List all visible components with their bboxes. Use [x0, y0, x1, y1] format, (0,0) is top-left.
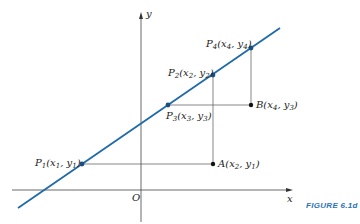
label-p4: P4(x4, y4)	[205, 38, 252, 51]
x-axis-label: x	[287, 193, 293, 204]
y-axis-label: y	[145, 8, 152, 19]
label-p2: P2(x2, y2)	[167, 67, 214, 80]
point-a	[211, 162, 215, 166]
x-axis-arrow-icon	[286, 188, 293, 192]
straight-line	[18, 28, 280, 208]
label-a: A(x2, y1)	[217, 158, 260, 171]
label-p3: P3(x3, y3)	[165, 110, 212, 123]
point-b	[249, 103, 253, 107]
label-b: B(x4, y3)	[255, 99, 298, 112]
y-axis-arrow-icon	[139, 12, 143, 19]
point-p3	[166, 103, 171, 108]
figure-caption: FIGURE 6.1d	[306, 201, 358, 210]
origin-label: O	[132, 192, 140, 203]
label-p1: P1(x1, y1)	[34, 157, 81, 170]
figure-diagram: y x O P4(x4, y4) P2(x2, y2) P3(x3, y3) B…	[0, 0, 360, 224]
